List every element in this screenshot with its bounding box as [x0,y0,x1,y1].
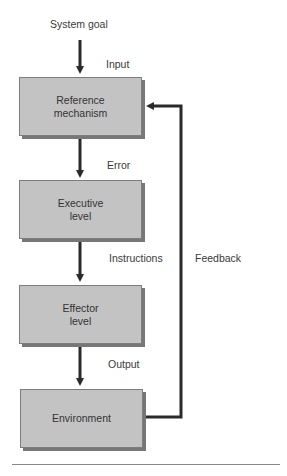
executive-level-box: Executive level [19,180,142,239]
executive-level-line2: level [58,210,104,223]
executive-level-line1: Executive [58,197,104,210]
output-label: Output [108,358,140,370]
reference-mechanism-box: Reference mechanism [19,77,142,136]
effector-level-box: Effector level [19,285,142,344]
reference-mechanism-line1: Reference [54,94,108,107]
bottom-divider [12,464,280,465]
reference-mechanism-line2: mechanism [54,107,108,120]
instructions-label: Instructions [109,252,163,264]
environment-line1: Environment [52,412,111,425]
feedback-label: Feedback [195,252,241,264]
error-label: Error [107,159,130,171]
effector-level-line2: level [63,315,99,328]
environment-box: Environment [20,389,143,448]
effector-level-line1: Effector [63,302,99,315]
